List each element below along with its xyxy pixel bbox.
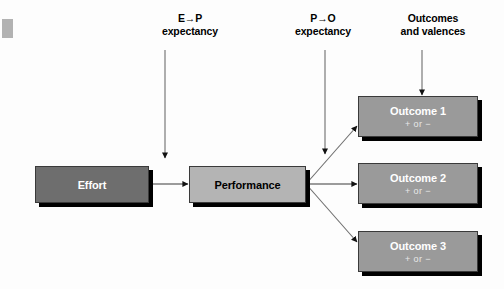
outcome-3-box-valence: + or − xyxy=(405,254,431,264)
outcome-1-box-title: Outcome 1 xyxy=(390,105,446,117)
caption-line-2: expectancy xyxy=(130,25,250,38)
arrow-performance-to-outcome-1 xyxy=(306,126,357,184)
arrow-performance-to-outcome-3 xyxy=(306,184,357,242)
effort-box-title: Effort xyxy=(78,179,107,191)
outcome-3-box-title: Outcome 3 xyxy=(390,240,446,252)
outcome-2-box[interactable]: Outcome 2 + or − xyxy=(358,163,478,204)
caption-e-p-expectancy: E→P expectancy xyxy=(130,12,250,38)
outcome-1-box[interactable]: Outcome 1 + or − xyxy=(358,96,478,137)
outcome-3-box[interactable]: Outcome 3 + or − xyxy=(358,231,478,272)
outcome-2-box-title: Outcome 2 xyxy=(390,172,446,184)
performance-box-title: Performance xyxy=(214,179,280,191)
caption-line-2: expectancy xyxy=(268,25,378,38)
caption-line-1: E→P xyxy=(130,12,250,25)
caption-outcomes-and-valences: Outcomes and valences xyxy=(373,12,493,38)
caption-line-1: P→O xyxy=(268,12,378,25)
diagram-canvas: E→P expectancy P→O expectancy Outcomes a… xyxy=(0,0,504,289)
caption-line-1: Outcomes xyxy=(373,12,493,25)
outcome-1-box-valence: + or − xyxy=(405,119,431,129)
caption-line-2: and valences xyxy=(373,25,493,38)
effort-box[interactable]: Effort xyxy=(35,166,149,203)
caption-p-o-expectancy: P→O expectancy xyxy=(268,12,378,38)
performance-box[interactable]: Performance xyxy=(189,166,306,203)
outcome-2-box-valence: + or − xyxy=(405,186,431,196)
corner-artifact xyxy=(2,19,13,38)
